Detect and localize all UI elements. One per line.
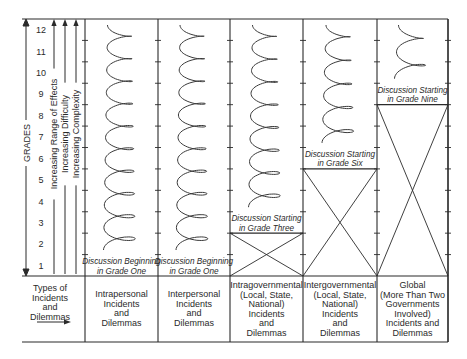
incident-type-label: and <box>186 308 201 318</box>
incident-type-label: and <box>114 308 129 318</box>
column-divider <box>82 19 88 342</box>
discussion-start-caption: Discussion Starting <box>377 86 448 95</box>
grade-label: 5 <box>38 175 43 185</box>
discussion-start-caption: Discussion Starting <box>305 150 376 159</box>
incident-type-label: Interpersonal <box>168 289 221 299</box>
discussion-start-caption: in Grade Six <box>317 159 363 168</box>
row-header-label: and <box>42 302 57 312</box>
incident-type-label: Governments <box>385 299 440 309</box>
incident-type-label: Dilemmas <box>320 328 361 338</box>
incident-type-label: (Local, State, <box>313 290 366 300</box>
trend-arrow: Increasing Difficulty <box>60 19 70 274</box>
trend-arrow-label: Increasing Range of Effects <box>49 78 59 189</box>
incident-column: Discussion Beginningin Grade OneIntraper… <box>82 25 161 328</box>
incident-column: Discussion Startingin Grade SixIntergove… <box>303 25 377 338</box>
incident-type-label: Involved) <box>394 309 431 319</box>
discussion-start-caption: in Grade Nine <box>387 95 438 104</box>
trend-arrow: Increasing Complexity <box>71 19 81 274</box>
column-divider <box>300 19 306 342</box>
trend-arrow: Increasing Range of Effects <box>49 19 59 274</box>
incident-type-label: Incidents <box>176 299 213 309</box>
incident-type-label: Intrapersonal <box>95 289 148 299</box>
grade-label: 6 <box>38 154 43 164</box>
incident-column: Discussion Startingin Grade NineGlobal(M… <box>377 25 448 338</box>
column-divider <box>227 19 233 342</box>
grade-label: 9 <box>38 89 43 99</box>
spiral-icon <box>176 25 208 250</box>
column-divider <box>155 19 161 342</box>
grade-label: 4 <box>38 197 43 207</box>
row-header-label: Incidents <box>32 293 69 303</box>
incident-type-label: National) <box>248 299 284 309</box>
grade-label: 8 <box>38 111 43 121</box>
grade-label: 3 <box>38 218 43 228</box>
incident-type-label: (More Than Two <box>380 290 445 300</box>
incident-type-label: Dilemmas <box>101 318 142 328</box>
column-divider <box>445 19 451 342</box>
incident-column: Discussion Beginningin Grade OneInterper… <box>155 25 234 328</box>
discussion-start-caption: Discussion Beginning <box>155 257 234 266</box>
incident-type-label: Intergovernmental <box>304 280 377 290</box>
incident-type-label: Dilemmas <box>246 328 287 338</box>
grade-label: 10 <box>36 68 46 78</box>
incident-type-label: (Local, State, <box>240 290 293 300</box>
grade-label: 12 <box>36 25 46 35</box>
spiral-icon <box>104 25 136 250</box>
discussion-start-caption: in Grade One <box>169 267 219 276</box>
spiral-icon <box>249 25 281 207</box>
incident-type-label: National) <box>322 299 358 309</box>
spiral-icon <box>322 25 354 143</box>
grade-label: 2 <box>38 239 43 249</box>
incident-type-label: Incidents <box>248 309 285 319</box>
incident-type-label: Incidents <box>322 309 359 319</box>
incident-type-label: and <box>332 318 347 328</box>
incident-type-label: Incidents and <box>386 318 440 328</box>
discussion-start-caption: in Grade One <box>97 267 147 276</box>
trend-arrow-label: Increasing Complexity <box>71 89 81 178</box>
trend-arrow-label: Increasing Difficulty <box>60 95 70 173</box>
discussion-start-caption: Discussion Starting <box>231 214 302 223</box>
incident-column: Discussion Startingin Grade ThreeIntrago… <box>230 25 303 338</box>
discussion-start-caption: Discussion Beginning <box>82 257 161 266</box>
grade-label: 7 <box>38 132 43 142</box>
incident-type-label: Incidents <box>103 299 140 309</box>
incident-type-label: Intragovernmental <box>230 280 303 290</box>
incident-type-label: Dilemmas <box>174 318 215 328</box>
incident-type-label: and <box>259 318 274 328</box>
curriculum-spiral-diagram: GRADES 123456789101112 Increasing Range … <box>0 0 467 359</box>
grade-label: 1 <box>38 261 43 271</box>
grades-axis-title: GRADES <box>22 124 32 162</box>
incident-type-label: Global <box>399 280 425 290</box>
grade-label: 11 <box>36 47 45 57</box>
row-header-label: Types of <box>33 283 68 293</box>
spiral-icon <box>395 25 426 79</box>
discussion-start-caption: in Grade Three <box>239 224 295 233</box>
incident-type-label: Dilemmas <box>392 328 433 338</box>
